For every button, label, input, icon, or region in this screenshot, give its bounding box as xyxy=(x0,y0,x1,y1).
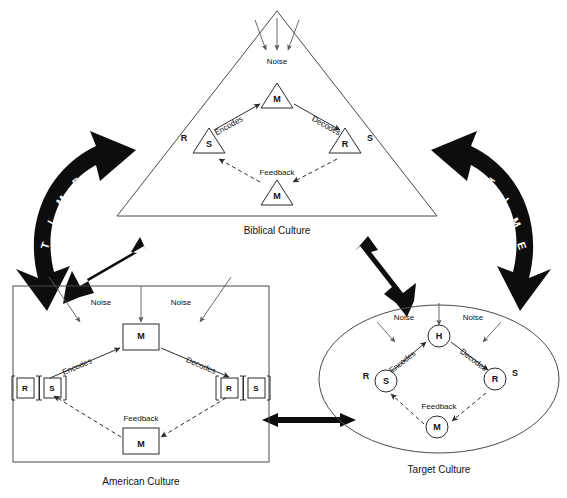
american-node-left-inner: S xyxy=(49,384,55,393)
biblical-feedback-arrow-right xyxy=(293,159,337,182)
american-feedback-arrow-right xyxy=(161,398,226,437)
american-node-right-outer: S xyxy=(253,384,259,393)
culture-american: Noise Noise M R S xyxy=(12,277,270,487)
american-noise-label-left: Noise xyxy=(91,298,112,307)
american-node-bottom: M xyxy=(123,428,159,454)
svg-text:E: E xyxy=(70,175,83,189)
target-noise-label-left: Noise xyxy=(394,313,415,322)
biblical-node-bottom: M xyxy=(261,180,293,205)
biblical-node-right-inner: R xyxy=(342,139,349,149)
biblical-noise-label: Noise xyxy=(267,57,288,66)
target-node-right: R S xyxy=(484,368,518,390)
communication-model-diagram: T I M E T I M E Noise xyxy=(0,0,567,498)
connector-american-target xyxy=(262,413,356,427)
target-encodes-label: Encodes xyxy=(387,349,417,375)
biblical-noise-arrows xyxy=(255,18,299,50)
target-feedback-arrow-left xyxy=(391,394,424,424)
biblical-feedback-label: Feedback xyxy=(259,168,295,177)
target-node-top-label: H xyxy=(436,331,443,341)
time-arrow-right: T I M E xyxy=(431,131,551,311)
american-node-top: M xyxy=(123,324,159,350)
american-feedback-label: Feedback xyxy=(123,414,159,423)
biblical-node-top: M xyxy=(261,83,293,108)
target-culture-caption: Target Culture xyxy=(408,464,471,475)
american-feedback-arrow-left xyxy=(54,396,121,437)
american-noise-label-right: Noise xyxy=(171,298,192,307)
target-node-right-outer: S xyxy=(512,368,518,378)
biblical-culture-caption: Biblical Culture xyxy=(244,225,311,236)
target-node-left-outer: R xyxy=(363,371,370,381)
american-node-top-label: M xyxy=(137,331,145,341)
biblical-node-right-outer: S xyxy=(367,133,373,143)
american-decodes-label: Decodes xyxy=(185,355,218,376)
target-node-top: H xyxy=(428,325,450,347)
target-decodes-label: Decodes xyxy=(458,347,489,373)
target-node-bottom-label: M xyxy=(433,422,441,432)
american-culture-caption: American Culture xyxy=(102,476,180,487)
american-node-right-inner: R xyxy=(226,384,232,393)
american-encodes-label: Encodes xyxy=(61,356,93,376)
biblical-node-bottom-label: M xyxy=(273,191,281,201)
target-node-right-inner: R xyxy=(492,374,499,384)
biblical-node-left-inner: S xyxy=(206,139,212,149)
culture-target: Noise Noise H S R R S M xyxy=(319,303,559,475)
target-feedback-label: Feedback xyxy=(421,402,457,411)
target-noise-label-right: Noise xyxy=(463,313,484,322)
biblical-node-top-label: M xyxy=(273,94,281,104)
connector-biblical-american xyxy=(63,237,147,304)
target-node-left-inner: S xyxy=(383,376,389,386)
american-node-left: R S xyxy=(12,376,66,400)
american-node-right: R S xyxy=(216,376,270,400)
figure-canvas: T I M E T I M E Noise xyxy=(0,0,567,498)
american-node-bottom-label: M xyxy=(137,439,145,449)
biblical-node-left-outer: R xyxy=(181,133,188,143)
culture-biblical: Noise M S R R S M xyxy=(117,11,437,236)
target-node-bottom: M xyxy=(426,416,448,438)
biblical-decodes-label: Decodes xyxy=(310,114,342,137)
biblical-encodes-label: Encodes xyxy=(213,114,245,137)
american-node-left-outer: R xyxy=(22,384,28,393)
target-feedback-arrow-right xyxy=(452,393,486,421)
connector-biblical-target xyxy=(355,236,416,317)
biblical-feedback-arrow-left xyxy=(219,159,260,182)
